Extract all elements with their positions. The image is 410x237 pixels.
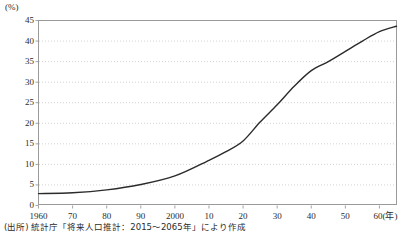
y-tick-marks-group — [36, 21, 39, 206]
y-tick-label: 5 — [8, 180, 34, 189]
y-tick-label: 20 — [8, 119, 34, 128]
x-tick-label: 80 — [102, 212, 111, 221]
x-tick-label: 20 — [239, 212, 248, 221]
y-tick-label: 30 — [8, 78, 34, 87]
source-note: (出所) 統計庁「将来人口推計：2015～2065年」により作成 — [4, 222, 246, 233]
x-tick-marks-group — [39, 206, 380, 209]
y-tick-label: 45 — [8, 16, 34, 25]
x-tick-label: 50 — [341, 212, 350, 221]
y-tick-label: 25 — [8, 98, 34, 107]
x-tick-label: 10 — [204, 212, 213, 221]
x-tick-label: 60(年) — [362, 212, 408, 221]
x-tick-label: 90 — [136, 212, 145, 221]
y-tick-label: 10 — [8, 160, 34, 169]
y-tick-label: 15 — [8, 139, 34, 148]
chart-figure: (%) 051015202530354045 19607080902000102… — [0, 0, 410, 237]
y-tick-label: 35 — [8, 57, 34, 66]
chart-canvas — [0, 0, 410, 237]
y-tick-label: 0 — [8, 201, 34, 210]
x-tick-label: 2000 — [152, 212, 198, 221]
gridlines-group — [39, 41, 396, 185]
x-tick-label: 70 — [68, 212, 77, 221]
y-tick-label: 40 — [8, 37, 34, 46]
x-tick-label: 1960 — [16, 212, 62, 221]
x-tick-label: 30 — [273, 212, 282, 221]
x-tick-label: 40 — [307, 212, 316, 221]
data-series-line — [39, 26, 397, 193]
